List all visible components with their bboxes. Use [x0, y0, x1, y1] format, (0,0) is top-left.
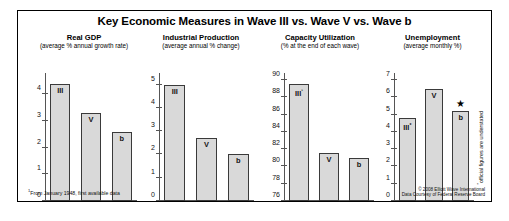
- vertical-note: *official figures are understated: [476, 111, 484, 185]
- y-tick: [281, 114, 287, 115]
- star-annotation-icon: ★: [452, 99, 470, 109]
- y-tick: [156, 153, 162, 154]
- y-tick: [281, 165, 287, 166]
- y-tick: [281, 148, 287, 149]
- y-tick: [391, 200, 397, 201]
- y-tick: [42, 173, 48, 174]
- bar: b: [228, 154, 249, 201]
- y-tick: [156, 200, 162, 201]
- y-tick-label: 76: [272, 191, 280, 198]
- panel-subtitle: (average monthly %): [380, 42, 485, 49]
- y-tick-label: 3: [151, 121, 155, 128]
- bar-label: V: [197, 141, 216, 149]
- y-tick: [156, 177, 162, 178]
- panel-title: Real GDP: [28, 33, 140, 42]
- y-tick-label: 4: [151, 97, 155, 104]
- y-tick: [281, 79, 287, 80]
- y-tick-label: 80: [272, 156, 280, 163]
- y-tick-label: 78: [272, 173, 280, 180]
- y-tick: [156, 107, 162, 108]
- chart-title: Key Economic Measures in Wave III vs. Wa…: [18, 15, 491, 27]
- y-tick: [391, 148, 397, 149]
- bar-label: III¹: [290, 87, 308, 98]
- y-tick: [156, 130, 162, 131]
- bar-label: b: [229, 157, 248, 165]
- bar-label: V: [82, 116, 100, 124]
- y-tick: [281, 131, 287, 132]
- bar: III: [164, 85, 185, 201]
- bar-label: V: [320, 156, 338, 164]
- panel-unemployment: Unemployment (average monthly %) 0123456…: [380, 33, 485, 201]
- bar: V: [319, 153, 339, 201]
- y-axis: [159, 73, 160, 201]
- vertical-note-marker: *: [476, 183, 481, 185]
- y-tick: [281, 183, 287, 184]
- bar: V: [425, 89, 443, 201]
- y-tick: [281, 200, 287, 201]
- panel-title: Industrial Production: [142, 33, 260, 42]
- y-axis: [45, 73, 46, 201]
- y-tick-label: 86: [272, 104, 280, 111]
- y-tick-label: 5: [151, 74, 155, 81]
- plot-area: 012345IIIVb: [159, 73, 254, 201]
- y-tick: [391, 183, 397, 184]
- panel-subtitle: (% at the end of each wave): [262, 42, 378, 49]
- chart-page: Key Economic Measures in Wave III vs. Wa…: [0, 0, 509, 221]
- y-tick: [42, 147, 48, 148]
- y-tick-label: 2: [37, 137, 41, 144]
- panel-subtitle: (average % annual growth rate): [28, 42, 140, 49]
- y-tick: [391, 114, 397, 115]
- plot-area: 7678808284868890III¹Vb: [284, 73, 374, 201]
- y-tick-label: 84: [272, 121, 280, 128]
- bar-label: V: [426, 92, 442, 100]
- y-tick-label: 3: [37, 111, 41, 118]
- y-tick: [281, 96, 287, 97]
- y-tick: [391, 165, 397, 166]
- bar: b: [349, 158, 369, 201]
- y-tick-label: 1: [37, 164, 41, 171]
- panel-title: Capacity Utilization: [262, 33, 378, 42]
- y-tick-label: 3: [386, 139, 390, 146]
- bar: III¹: [289, 84, 309, 201]
- y-tick-label: 0: [386, 191, 390, 198]
- y-tick-label: 6: [386, 87, 390, 94]
- bar-label: III: [165, 88, 184, 96]
- y-tick-label: 4: [37, 84, 41, 91]
- bar-label: b: [350, 161, 368, 169]
- y-tick-label: 4: [386, 121, 390, 128]
- figure-frame: Key Economic Measures in Wave III vs. Wa…: [17, 10, 492, 202]
- panel-capacity-utilization: Capacity Utilization (% at the end of ea…: [262, 33, 378, 201]
- bar-label-marker: ¹: [301, 88, 303, 94]
- panel-real-gdp: Real GDP (average % annual growth rate) …: [28, 33, 140, 201]
- y-tick: [42, 93, 48, 94]
- y-tick: [391, 131, 397, 132]
- y-tick-label: 7: [386, 69, 390, 76]
- footnote-text: From January 1948, first available data: [30, 190, 120, 196]
- y-tick-label: 1: [386, 173, 390, 180]
- y-tick-label: 1: [151, 167, 155, 174]
- credit-source: Data Courtesy of Federal Reserve Board: [402, 192, 485, 198]
- y-tick: [42, 200, 48, 201]
- y-tick-label: 82: [272, 139, 280, 146]
- bar-label: b: [453, 114, 469, 122]
- y-tick-label: 90: [272, 69, 280, 76]
- y-tick-label: 2: [386, 156, 390, 163]
- y-tick: [391, 79, 397, 80]
- y-tick-label: 5: [386, 104, 390, 111]
- plot-area: 01234IIIVb: [45, 73, 137, 201]
- panel-title: Unemployment: [380, 33, 485, 42]
- y-tick: [391, 96, 397, 97]
- panel-industrial-production: Industrial Production (average annual % …: [142, 33, 260, 201]
- y-tick-label: 0: [151, 191, 155, 198]
- bar: V: [196, 138, 217, 201]
- footnote-real-gdp: 1From January 1948, first available data: [28, 188, 120, 196]
- panel-subtitle: (average annual % change): [142, 42, 260, 49]
- bar-label-marker: *: [409, 122, 411, 128]
- vertical-note-text: official figures are understated: [478, 111, 484, 183]
- y-tick: [156, 84, 162, 85]
- plot-area: 01234567III*Vb★: [394, 73, 474, 201]
- bar-label: b: [113, 135, 131, 143]
- bar: III: [50, 84, 70, 201]
- credit-block: © 2008 Elliott Wave International Data C…: [402, 187, 485, 198]
- bar-label: III*: [400, 121, 416, 132]
